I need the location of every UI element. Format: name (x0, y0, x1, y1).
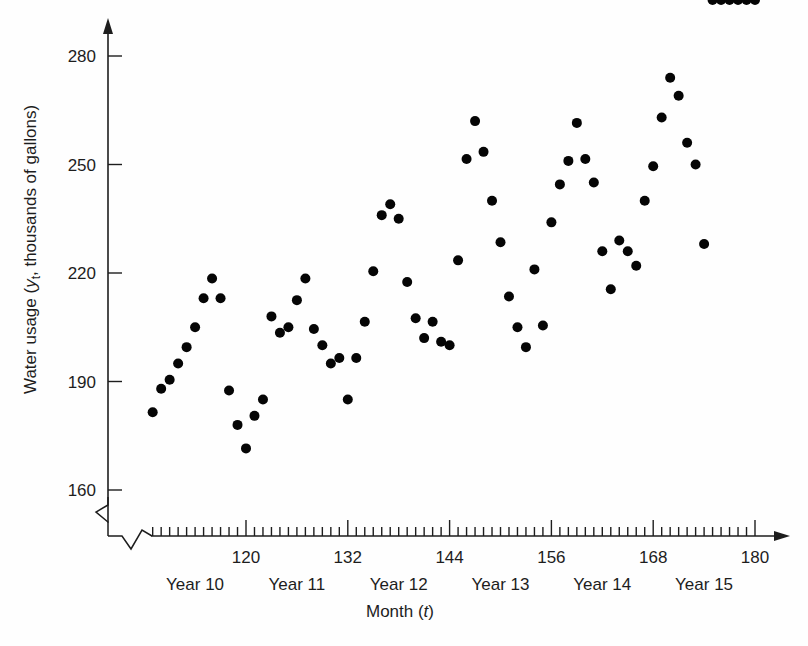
data-point (283, 322, 293, 332)
y-tick-label: 250 (68, 156, 96, 175)
data-point (241, 443, 251, 453)
x-tick-label: 132 (334, 548, 362, 567)
x-axis-title-prefix: Month ( (366, 602, 424, 621)
data-point (292, 295, 302, 305)
data-point (165, 375, 175, 385)
data-point (529, 264, 539, 274)
data-point (385, 199, 395, 209)
data-point (309, 324, 319, 334)
data-point (479, 147, 489, 157)
data-point (317, 340, 327, 350)
data-point (334, 353, 344, 363)
data-point (580, 154, 590, 164)
data-point (716, 0, 726, 5)
x-tick-label: 156 (537, 548, 565, 567)
x-axis (152, 531, 790, 541)
data-point (742, 0, 752, 5)
x-tick-label: 144 (435, 548, 463, 567)
data-point (351, 353, 361, 363)
data-point (563, 156, 573, 166)
data-point (258, 395, 268, 405)
data-point (674, 91, 684, 101)
data-point (428, 317, 438, 327)
x-axis-arrowhead (774, 531, 790, 541)
svg-text:Month (t): Month (t) (366, 602, 434, 621)
data-point (343, 395, 353, 405)
data-point (300, 273, 310, 283)
data-point (682, 138, 692, 148)
x-tick-label-group: 120132144156168180 (232, 548, 769, 567)
data-point (470, 116, 480, 126)
data-point (631, 261, 641, 271)
data-point (555, 179, 565, 189)
data-point (156, 384, 166, 394)
y-axis (103, 18, 113, 522)
data-point (377, 210, 387, 220)
year-group-label: Year 12 (370, 575, 428, 594)
data-point (190, 322, 200, 332)
data-point (249, 411, 259, 421)
y-tick-label: 190 (68, 373, 96, 392)
data-point (589, 178, 599, 188)
data-point (665, 73, 675, 83)
chart-canvas: 160190220250280 120132144156168180 Year … (0, 0, 808, 646)
data-point (614, 235, 624, 245)
data-point (199, 293, 209, 303)
year-group-label: Year 11 (269, 575, 326, 594)
data-point (708, 0, 718, 5)
data-point (512, 322, 522, 332)
data-point (699, 239, 709, 249)
data-point (521, 342, 531, 352)
data-point (182, 342, 192, 352)
x-tick-group (153, 520, 755, 536)
data-point (546, 217, 556, 227)
y-tick-label: 160 (68, 481, 96, 500)
data-point (148, 407, 158, 417)
data-point (462, 154, 472, 164)
y-tick-label: 280 (68, 47, 96, 66)
data-point (657, 112, 667, 122)
y-axis-title-prefix: Water usage ( (21, 288, 40, 394)
x-tick-label: 168 (639, 548, 667, 567)
x-axis-break-icon (108, 530, 152, 549)
data-point (623, 246, 633, 256)
x-axis-title: Month (t) (366, 602, 434, 621)
scatter-plot-figure: 160190220250280 120132144156168180 Year … (0, 0, 808, 646)
data-point (419, 333, 429, 343)
year-group-label: Year 15 (675, 575, 733, 594)
data-point (606, 284, 616, 294)
data-point (326, 358, 336, 368)
y-axis-title: Water usage (yt, thousands of gallons) (21, 105, 43, 394)
data-point (496, 237, 506, 247)
data-point (504, 292, 514, 302)
x-tick-label: 120 (232, 548, 260, 567)
year-group-label: Year 14 (573, 575, 631, 594)
data-point (572, 118, 582, 128)
data-point (402, 277, 412, 287)
data-point (538, 320, 548, 330)
year-group-label: Year 13 (472, 575, 530, 594)
y-axis-break-icon (96, 497, 108, 536)
data-point (224, 386, 234, 396)
data-point (648, 161, 658, 171)
data-point (266, 311, 276, 321)
data-point (275, 328, 285, 338)
year-label-group: Year 10Year 11Year 12Year 13Year 14Year … (166, 575, 733, 594)
y-tick-group: 160190220250280 (68, 47, 122, 500)
data-point (750, 0, 760, 5)
svg-text:Water usage (yt, thousands of: Water usage (yt, thousands of gallons) (21, 105, 43, 394)
y-tick-label: 220 (68, 264, 96, 283)
data-point (453, 255, 463, 265)
data-point (445, 340, 455, 350)
year-group-label: Year 10 (166, 575, 224, 594)
data-point (691, 160, 701, 170)
x-tick-label: 180 (741, 548, 769, 567)
y-axis-title-suffix: , thousands of gallons) (21, 105, 40, 276)
y-axis-arrowhead (103, 18, 113, 34)
data-point (725, 0, 735, 5)
data-point (640, 196, 650, 206)
data-point (733, 0, 743, 5)
data-point (597, 246, 607, 256)
data-point-group (148, 0, 760, 453)
data-point (207, 273, 217, 283)
